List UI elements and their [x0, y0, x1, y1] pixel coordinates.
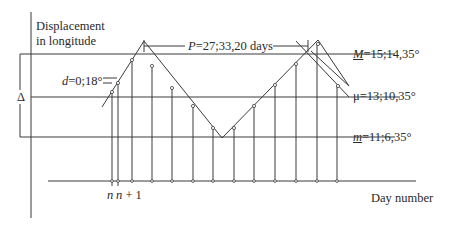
max-var: M [353, 47, 363, 61]
y-axis-label-line1: Displacement [36, 19, 105, 33]
period-label: P=27;33,20 days [188, 39, 273, 53]
x-axis-label: Day number [371, 191, 433, 205]
mean-var: μ [353, 89, 360, 103]
zigzag-tail [318, 40, 349, 86]
day-n1-label: n + 1 [116, 188, 142, 202]
y-axis-label-line2: in longitude [36, 34, 96, 48]
min-label: m=11;6,35° [353, 130, 411, 144]
min-value: =11;6,35° [362, 130, 411, 144]
day-n1-plus: + 1 [122, 188, 142, 202]
zigzag-line [102, 40, 318, 138]
difference-label: d=0;18° [62, 74, 103, 88]
amplitude-label: Δ [16, 90, 26, 104]
max-label: M=15;14,35° [353, 47, 420, 61]
difference-value: =0;18° [68, 74, 102, 88]
max-value: =15;14,35° [363, 47, 419, 61]
min-var: m [353, 130, 362, 144]
period-var: P [188, 39, 196, 53]
mean-label: μ=13;10,35° [353, 89, 416, 103]
mean-value: =13;10,35° [360, 89, 416, 103]
day-n-label: n [107, 188, 113, 202]
period-value: =27;33,20 days [196, 39, 273, 53]
